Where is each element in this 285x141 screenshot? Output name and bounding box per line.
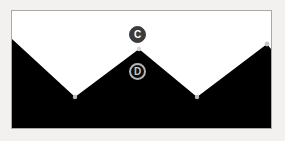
vertex-marker-peak-right: [265, 42, 270, 47]
zigzag-filled-area: [12, 39, 271, 128]
vertex-marker-peak-center: [137, 47, 141, 51]
vertex-marker-valley-2: [195, 95, 199, 99]
vertex-marker-valley-1: [73, 95, 77, 99]
annotation-badge-d[interactable]: D: [129, 63, 146, 80]
annotation-badge-c[interactable]: C: [129, 26, 146, 43]
figure-canvas: C D: [0, 0, 285, 141]
